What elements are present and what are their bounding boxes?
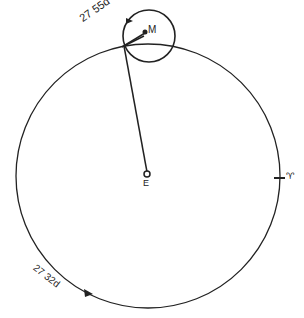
moon-point (143, 30, 148, 35)
small-orbit-circle (123, 10, 175, 62)
earth-radius-line (124, 46, 147, 172)
earth-label: E (143, 178, 149, 188)
earth-point (144, 171, 150, 177)
orbit-diagram: M E ♈ 27 55d 27 32d (0, 0, 304, 318)
moon-label: M (148, 24, 156, 35)
vernal-equinox-label: ♈ (286, 171, 294, 181)
